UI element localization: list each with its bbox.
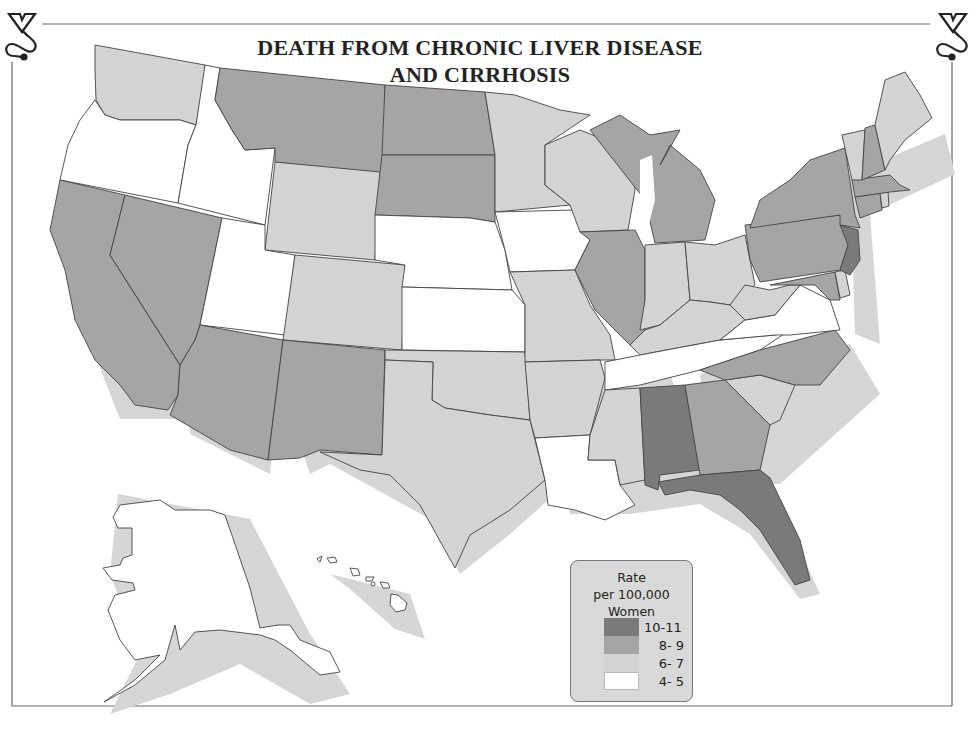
legend: Rate per 100,000 Women 10-11 8- 9 6- 7 4… [570,560,693,702]
title-line-2: AND CIRRHOSIS [200,61,760,88]
map-title: DEATH FROM CHRONIC LIVER DISEASE AND CIR… [200,34,760,88]
legend-row: 6- 7 [604,654,684,672]
state-rhode-island[interactable] [880,192,889,208]
state-wyoming[interactable] [265,162,380,260]
legend-row: 10-11 [604,618,684,636]
legend-row: 4- 5 [604,672,684,690]
legend-rows: 10-11 8- 9 6- 7 4- 5 [604,618,684,690]
state-washington[interactable] [95,45,205,125]
legend-subtitle: per 100,000 Women [571,586,692,620]
legend-row: 8- 9 [604,636,684,654]
legend-label: 4- 5 [644,674,684,689]
state-new-mexico[interactable] [268,340,385,460]
legend-swatch-10-11 [604,618,639,636]
corner-ornament-right-icon [937,14,966,60]
title-line-1: DEATH FROM CHRONIC LIVER DISEASE [200,34,760,61]
legend-swatch-4-5 [604,672,639,690]
legend-label: 6- 7 [644,656,684,671]
state-new-york[interactable] [750,148,860,228]
state-colorado[interactable] [283,255,405,350]
us-states [50,45,932,702]
legend-label: 8- 9 [644,638,684,653]
legend-title: Rate [571,569,692,586]
state-north-dakota[interactable] [382,85,495,155]
legend-swatch-8-9 [604,636,639,654]
corner-ornament-left-icon [6,14,35,60]
map-canvas [0,0,972,736]
legend-swatch-6-7 [604,654,639,672]
state-south-dakota[interactable] [375,155,495,222]
state-kansas[interactable] [402,287,525,352]
legend-label: 10-11 [644,620,684,635]
